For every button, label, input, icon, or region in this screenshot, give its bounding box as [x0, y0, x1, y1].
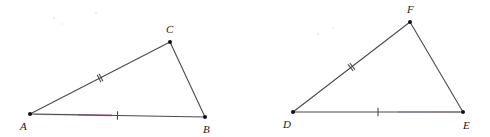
background-speck	[53, 17, 55, 19]
background-speck	[332, 27, 334, 29]
triangle-abc: ABC	[19, 23, 210, 135]
vertex-dot-f	[408, 20, 412, 24]
triangle-def: DEF	[282, 3, 470, 131]
vertex-label-e: E	[462, 119, 470, 131]
edge-df	[293, 22, 410, 112]
edge-cb	[170, 42, 205, 117]
vertex-dot-d	[291, 110, 295, 114]
edge-df-tick-1	[348, 64, 353, 71]
vertex-label-a: A	[19, 120, 27, 132]
edge-ac	[30, 42, 170, 114]
vertex-label-f: F	[406, 3, 414, 15]
vertex-label-c: C	[166, 23, 174, 35]
vertex-dot-e	[461, 110, 465, 114]
edge-df-tick-2	[350, 63, 355, 70]
vertex-label-d: D	[282, 118, 291, 130]
vertex-dot-b	[203, 115, 207, 119]
vertex-dot-a	[28, 112, 32, 116]
vertex-label-b: B	[203, 123, 210, 135]
background-speck	[61, 23, 63, 25]
background-speck	[317, 33, 319, 35]
geometry-figure: ABCDEF	[0, 0, 490, 137]
triangles-canvas: ABCDEF	[0, 0, 490, 137]
vertex-dot-c	[168, 40, 172, 44]
background-speck	[95, 12, 97, 14]
edge-fe	[410, 22, 463, 112]
